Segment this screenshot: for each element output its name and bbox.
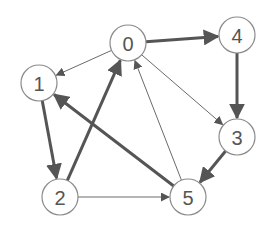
edge-2-to-0 [67,60,120,180]
edge-3-to-5 [200,151,226,182]
node-label: 0 [122,33,133,55]
node-label: 1 [33,73,44,95]
node-label: 4 [231,25,242,47]
node-label: 3 [231,127,242,149]
directed-graph: 012345 [0,0,280,238]
node-4: 4 [219,17,255,53]
node-5: 5 [170,179,206,215]
edges-layer [42,36,237,197]
edge-0-to-3 [142,55,223,125]
edge-1-to-2 [42,101,56,179]
edge-0-to-1 [56,50,111,75]
node-label: 5 [182,187,193,209]
node-label: 2 [54,187,65,209]
nodes-layer: 012345 [21,17,255,215]
node-0: 0 [110,25,146,61]
node-1: 1 [21,65,57,101]
edge-0-to-4 [146,36,218,41]
node-3: 3 [219,119,255,155]
node-2: 2 [42,179,78,215]
